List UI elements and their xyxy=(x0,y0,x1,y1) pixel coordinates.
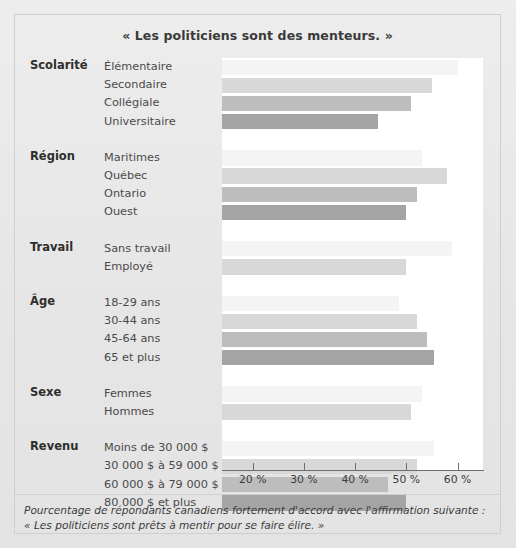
bar-row xyxy=(222,167,483,185)
group-name: Revenu xyxy=(30,439,102,453)
bar xyxy=(222,114,378,129)
x-axis-tick-label: 60 % xyxy=(444,473,471,486)
bar-row xyxy=(222,58,483,76)
group-category-list: Sans travailEmployé xyxy=(104,240,224,276)
bar-row xyxy=(222,330,483,348)
bar-row xyxy=(222,240,483,258)
category-label-column: ScolaritéÉlémentaireSecondaireCollégiale… xyxy=(30,58,222,458)
category-label: Employé xyxy=(104,258,224,276)
x-axis-line xyxy=(222,470,484,471)
bar-row xyxy=(222,294,483,312)
category-label: 30 000 $ à 59 000 $ xyxy=(104,457,224,475)
group-category-list: Moins de 30 000 $30 000 $ à 59 000 $60 0… xyxy=(104,439,224,512)
group-category-list: FemmesHommes xyxy=(104,385,224,421)
bar xyxy=(222,332,427,347)
bar xyxy=(222,150,422,165)
bar xyxy=(222,96,411,111)
bar-group-4 xyxy=(222,385,483,421)
bar xyxy=(222,78,432,93)
bar-row xyxy=(222,113,483,131)
x-axis-tick-label: 30 % xyxy=(290,473,317,486)
x-axis-tick xyxy=(253,463,254,471)
group-name: Travail xyxy=(30,240,102,254)
bar-row xyxy=(222,439,483,457)
caption-divider xyxy=(14,494,501,495)
category-label: 60 000 $ à 79 000 $ xyxy=(104,476,224,494)
group-category-list: 18-29 ans30-44 ans45-64 ans65 et plus xyxy=(104,294,224,367)
bar-row xyxy=(222,312,483,330)
group-name: Sexe xyxy=(30,385,102,399)
figure-canvas: « Les politiciens sont des menteurs. » S… xyxy=(0,0,516,548)
category-label: Québec xyxy=(104,167,224,185)
bar-row xyxy=(222,94,483,112)
caption-line-1: Pourcentage de répondants canadiens fort… xyxy=(24,504,485,516)
bar-row xyxy=(222,203,483,221)
x-axis-tick xyxy=(458,463,459,471)
bar-row xyxy=(222,403,483,421)
category-label: 18-29 ans xyxy=(104,294,224,312)
x-axis-tick-label: 40 % xyxy=(341,473,368,486)
category-label: Maritimes xyxy=(104,149,224,167)
bar xyxy=(222,386,422,401)
x-axis-tick-label: 20 % xyxy=(239,473,266,486)
figure-caption: Pourcentage de répondants canadiens fort… xyxy=(24,503,494,532)
group-name: Âge xyxy=(30,294,102,308)
category-label: 65 et plus xyxy=(104,349,224,367)
category-label: Élémentaire xyxy=(104,58,224,76)
bar xyxy=(222,187,417,202)
bar xyxy=(222,205,406,220)
bar-group-3 xyxy=(222,294,483,367)
group-name: Région xyxy=(30,149,102,163)
caption-line-2: « Les politiciens sont prêts à mentir po… xyxy=(24,518,494,533)
bar-plot-area xyxy=(222,58,483,458)
chart-title: « Les politiciens sont des menteurs. » xyxy=(14,28,501,43)
x-axis-tick-label: 50 % xyxy=(393,473,420,486)
category-label: Hommes xyxy=(104,403,224,421)
bar-row xyxy=(222,349,483,367)
category-label: Moins de 30 000 $ xyxy=(104,439,224,457)
bar-row xyxy=(222,149,483,167)
category-label: Secondaire xyxy=(104,76,224,94)
bar xyxy=(222,241,452,256)
category-label: 45-64 ans xyxy=(104,330,224,348)
x-axis-tick xyxy=(406,463,407,471)
category-label: Femmes xyxy=(104,385,224,403)
bar-group-1 xyxy=(222,149,483,222)
category-label: Collégiale xyxy=(104,94,224,112)
bar xyxy=(222,314,417,329)
bar-row xyxy=(222,185,483,203)
bar-row xyxy=(222,258,483,276)
bar xyxy=(222,404,411,419)
category-label: Ouest xyxy=(104,203,224,221)
group-name: Scolarité xyxy=(30,58,102,72)
group-category-list: ÉlémentaireSecondaireCollégialeUniversit… xyxy=(104,58,224,131)
category-label: Ontario xyxy=(104,185,224,203)
bar xyxy=(222,441,434,456)
bar xyxy=(222,60,458,75)
bar-group-2 xyxy=(222,240,483,276)
bar xyxy=(222,259,406,274)
category-label: 30-44 ans xyxy=(104,312,224,330)
category-label: Sans travail xyxy=(104,240,224,258)
bar-row xyxy=(222,385,483,403)
x-axis-tick xyxy=(304,463,305,471)
bar xyxy=(222,296,399,311)
category-label: Universitaire xyxy=(104,113,224,131)
bar xyxy=(222,350,434,365)
bar-group-0 xyxy=(222,58,483,131)
x-axis-tick xyxy=(355,463,356,471)
bar xyxy=(222,459,417,474)
group-category-list: MaritimesQuébecOntarioOuest xyxy=(104,149,224,222)
bar xyxy=(222,168,447,183)
bar-row xyxy=(222,76,483,94)
